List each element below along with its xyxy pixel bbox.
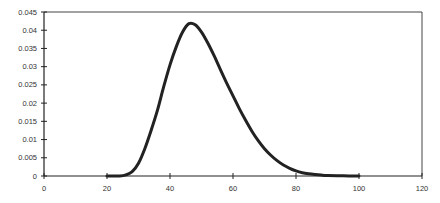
y-tick-label: 0.005 (18, 153, 37, 162)
series-line-density (107, 23, 359, 176)
y-ticks: 00.0050.010.0150.020.0250.030.0350.040.0… (18, 8, 47, 181)
x-tick-label: 0 (42, 184, 46, 193)
y-tick-label: 0.04 (22, 26, 37, 35)
y-tick-label: 0.015 (18, 117, 37, 126)
x-tick-label: 40 (166, 184, 174, 193)
series-group (107, 23, 359, 176)
x-tick-label: 20 (103, 184, 111, 193)
chart: 020406080100120 00.0050.010.0150.020.025… (0, 0, 440, 203)
x-tick-label: 60 (229, 184, 237, 193)
x-tick-label: 80 (292, 184, 300, 193)
y-tick-label: 0.035 (18, 44, 37, 53)
y-tick-label: 0 (33, 172, 37, 181)
y-tick-label: 0.03 (22, 62, 37, 71)
y-tick-label: 0.025 (18, 80, 37, 89)
y-tick-label: 0.02 (22, 99, 37, 108)
x-tick-label: 100 (353, 184, 366, 193)
y-tick-label: 0.045 (18, 8, 37, 17)
x-tick-label: 120 (416, 184, 429, 193)
y-tick-label: 0.01 (22, 135, 37, 144)
